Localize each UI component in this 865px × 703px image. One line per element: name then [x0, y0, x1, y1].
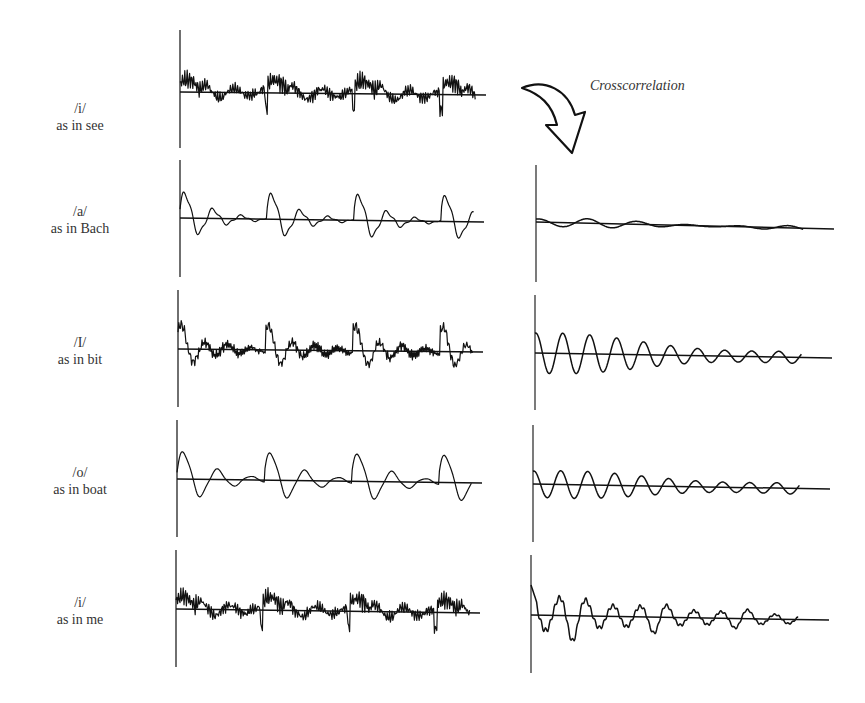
speech-waveform [178, 321, 472, 368]
speech-waveform [180, 70, 475, 116]
row-label-1: /i/ as in see [25, 100, 135, 134]
example-word: as in bit [25, 351, 135, 368]
xcorr-baseline [531, 615, 829, 620]
curved-down-arrow-icon [522, 84, 585, 153]
xcorr-baseline [533, 484, 830, 489]
ipa-symbol: /i/ [25, 100, 135, 117]
speech-waveform [177, 452, 471, 501]
example-word: as in me [25, 611, 135, 628]
ipa-symbol: /i/ [25, 594, 135, 611]
example-word: as in see [25, 117, 135, 134]
speech-waveform [180, 192, 474, 238]
speech-waveform [176, 588, 470, 634]
row-label-5: /i/ as in me [25, 594, 135, 628]
ipa-symbol: /o/ [25, 464, 135, 481]
crosscorrelation-label: Crosscorrelation [590, 78, 685, 94]
row-label-2: /a/ as in Bach [25, 203, 135, 237]
row-label-4: /o/ as in boat [25, 464, 135, 498]
example-word: as in Bach [25, 220, 135, 237]
ipa-symbol: /a/ [25, 203, 135, 220]
example-word: as in boat [25, 481, 135, 498]
row-label-3: /I/ as in bit [25, 334, 135, 368]
ipa-symbol: /I/ [25, 334, 135, 351]
crosscorrelation-waveform [531, 585, 798, 641]
xcorr-baseline [535, 353, 832, 358]
